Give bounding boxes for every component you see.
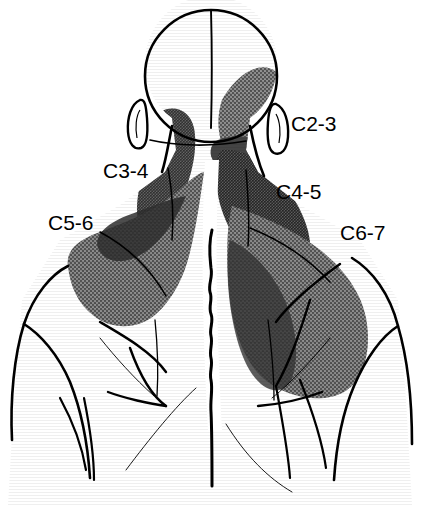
label-c2-3: C2-3 [291, 113, 337, 134]
right-ear [268, 104, 288, 154]
label-c6-7: C6-7 [340, 222, 386, 243]
label-c3-4: C3-4 [103, 160, 149, 181]
left-ear [128, 100, 147, 148]
dermatome-figure: C2-3 C3-4 C4-5 C5-6 C6-7 [0, 0, 431, 505]
head-midline [211, 10, 212, 128]
anatomy-illustration [0, 0, 431, 505]
label-c5-6: C5-6 [48, 212, 94, 233]
label-c4-5: C4-5 [276, 181, 322, 202]
